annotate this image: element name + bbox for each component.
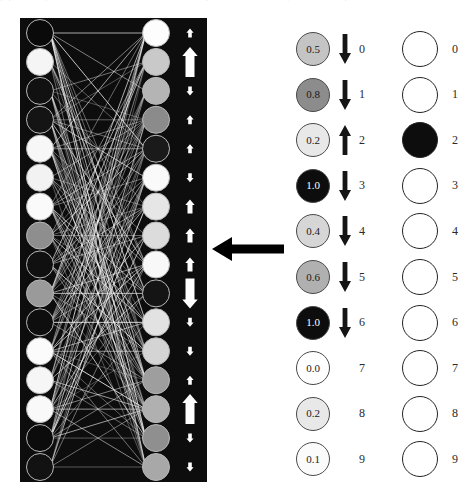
network-left-node bbox=[27, 396, 54, 423]
activation-row-index: 0 bbox=[359, 42, 365, 57]
activation-value: 0.5 bbox=[306, 44, 320, 55]
output-row[interactable]: 3 bbox=[402, 163, 472, 209]
side-arrow-up bbox=[185, 200, 194, 214]
network-right-node bbox=[143, 77, 170, 104]
output-node[interactable] bbox=[402, 168, 438, 204]
network-right-node bbox=[143, 309, 170, 336]
network-right-node bbox=[143, 135, 170, 162]
network-left-node bbox=[27, 280, 54, 307]
output-node[interactable] bbox=[402, 77, 438, 113]
network-right-node bbox=[143, 454, 170, 481]
side-arrow-up bbox=[186, 29, 193, 38]
network-left-node bbox=[27, 20, 54, 47]
output-row[interactable]: 5 bbox=[402, 254, 472, 300]
activation-row[interactable]: 0.81 bbox=[296, 72, 386, 118]
activation-arrow-slot bbox=[335, 442, 355, 476]
activation-row-index: 7 bbox=[359, 361, 365, 376]
activation-node[interactable]: 0.5 bbox=[296, 32, 330, 66]
output-node[interactable] bbox=[402, 259, 438, 295]
activation-node[interactable]: 0.6 bbox=[296, 260, 330, 294]
activation-node[interactable]: 1.0 bbox=[296, 169, 330, 203]
output-row[interactable]: 4 bbox=[402, 208, 472, 254]
network-graph bbox=[20, 18, 207, 482]
network-right-node bbox=[143, 164, 170, 191]
activation-row-index: 3 bbox=[359, 178, 365, 193]
activation-node[interactable]: 0.2 bbox=[296, 123, 330, 157]
activation-row[interactable]: 0.19 bbox=[296, 436, 386, 482]
output-node[interactable] bbox=[402, 441, 438, 477]
activation-arrow-slot bbox=[335, 306, 355, 340]
output-row[interactable]: 7 bbox=[402, 345, 472, 391]
activation-row[interactable]: 1.03 bbox=[296, 163, 386, 209]
side-arrow-down bbox=[186, 463, 193, 472]
output-node[interactable] bbox=[402, 31, 438, 67]
network-right-node bbox=[143, 251, 170, 278]
output-node[interactable] bbox=[402, 213, 438, 249]
output-row-index: 5 bbox=[452, 270, 458, 285]
output-row[interactable]: 1 bbox=[402, 72, 472, 118]
neural-network-panel bbox=[20, 18, 207, 482]
network-left-node bbox=[27, 222, 54, 249]
output-node[interactable] bbox=[402, 396, 438, 432]
side-arrow-down bbox=[186, 173, 193, 182]
network-right-node bbox=[143, 193, 170, 220]
activation-row[interactable]: 0.44 bbox=[296, 208, 386, 254]
activation-row-index: 4 bbox=[359, 224, 365, 239]
output-row[interactable]: 2 bbox=[402, 117, 472, 163]
network-left-node bbox=[27, 164, 54, 191]
activation-row-index: 2 bbox=[359, 133, 365, 148]
activation-node[interactable]: 0.2 bbox=[296, 397, 330, 431]
side-arrow-down bbox=[186, 347, 193, 356]
network-left-node bbox=[27, 135, 54, 162]
output-node[interactable] bbox=[402, 350, 438, 386]
activation-node[interactable]: 0.0 bbox=[296, 351, 330, 385]
network-right-node bbox=[143, 367, 170, 394]
activation-row[interactable]: 0.28 bbox=[296, 391, 386, 437]
activation-row-index: 9 bbox=[359, 452, 365, 467]
activation-arrow-slot bbox=[335, 397, 355, 431]
activation-value: 1.0 bbox=[306, 180, 320, 191]
activation-row[interactable]: 1.06 bbox=[296, 300, 386, 346]
activation-node[interactable]: 0.1 bbox=[296, 442, 330, 476]
activation-node[interactable]: 0.8 bbox=[296, 78, 330, 112]
activation-value: 0.2 bbox=[306, 135, 320, 146]
activation-arrow-slot bbox=[335, 123, 355, 157]
page-caption: 图表示意，其中左侧面板显示一个具有稠密连接的神经网络，右侧为激活值与输出单元。 bbox=[0, 0, 476, 3]
side-arrow-up bbox=[186, 376, 193, 385]
output-row[interactable]: 6 bbox=[402, 300, 472, 346]
network-left-node bbox=[27, 106, 54, 133]
activation-node[interactable]: 0.4 bbox=[296, 214, 330, 248]
output-node[interactable] bbox=[402, 305, 438, 341]
network-left-node bbox=[27, 48, 54, 75]
value-arrow-down bbox=[338, 171, 352, 201]
output-node[interactable] bbox=[402, 122, 438, 158]
value-arrow-down bbox=[338, 216, 352, 246]
activation-value: 0.1 bbox=[306, 454, 320, 465]
value-arrow-down bbox=[338, 80, 352, 110]
activation-row[interactable]: 0.07 bbox=[296, 345, 386, 391]
network-right-node bbox=[143, 280, 170, 307]
side-arrow-down bbox=[186, 318, 193, 327]
output-row-index: 8 bbox=[452, 406, 458, 421]
network-left-node bbox=[27, 338, 54, 365]
value-arrow-down bbox=[338, 308, 352, 338]
network-left-node bbox=[27, 367, 54, 394]
activation-node[interactable]: 1.0 bbox=[296, 306, 330, 340]
activation-value: 0.8 bbox=[306, 89, 320, 100]
activation-row[interactable]: 0.50 bbox=[296, 26, 386, 72]
side-arrow-up bbox=[182, 47, 197, 77]
output-row-index: 6 bbox=[452, 315, 458, 330]
output-row-index: 3 bbox=[452, 178, 458, 193]
network-edges bbox=[50, 33, 146, 467]
activation-arrow-slot bbox=[335, 169, 355, 203]
activation-row[interactable]: 0.65 bbox=[296, 254, 386, 300]
output-row[interactable]: 8 bbox=[402, 391, 472, 437]
activation-arrow-slot bbox=[335, 78, 355, 112]
output-row[interactable]: 9 bbox=[402, 436, 472, 482]
output-row-index: 7 bbox=[452, 361, 458, 376]
activation-row-index: 6 bbox=[359, 315, 365, 330]
activation-row[interactable]: 0.22 bbox=[296, 117, 386, 163]
side-arrow-up bbox=[186, 144, 193, 153]
output-row[interactable]: 0 bbox=[402, 26, 472, 72]
activation-arrow-slot bbox=[335, 32, 355, 66]
